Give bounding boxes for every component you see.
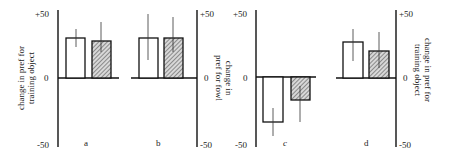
bar-b-hatched: [164, 38, 183, 78]
panel-label-d: d: [364, 138, 369, 148]
bar-a-hatched: [92, 41, 111, 78]
tick-top-right: +50: [399, 9, 414, 19]
tick-zero-c: 0: [243, 73, 248, 83]
bar-c-hatched: [291, 77, 310, 100]
svg-text:change in pref for: change in pref for: [16, 46, 26, 110]
tick-zero-right: 0: [403, 73, 408, 83]
tick-bottom-middle: -50: [200, 140, 212, 150]
ylabel-right: change in pref for training object: [413, 38, 433, 102]
ylabel-middle: change in pref for fowl: [214, 55, 234, 101]
bar-b-open: [139, 38, 158, 78]
tick-bottom-c: -50: [235, 140, 247, 150]
figure: +50 0 -50 change in pref for training ob…: [0, 0, 457, 156]
tick-zero-middle: 0: [204, 73, 209, 83]
tick-zero-left: 0: [44, 73, 49, 83]
svg-text:training object: training object: [413, 44, 423, 97]
ylabel-left: change in pref for training object: [16, 46, 36, 110]
svg-text:pref for fowl: pref for fowl: [214, 55, 224, 101]
svg-text:training object: training object: [26, 51, 36, 104]
bar-a-open: [66, 38, 85, 78]
tick-top-left: +50: [35, 9, 50, 19]
panel-label-a: a: [84, 138, 88, 148]
tick-top-c: +50: [233, 9, 248, 19]
tick-bottom-left: -50: [37, 140, 49, 150]
svg-text:change in: change in: [224, 61, 234, 96]
svg-text:change in pref for: change in pref for: [423, 38, 433, 102]
panel-label-b: b: [156, 138, 161, 148]
tick-top-middle: +50: [200, 9, 215, 19]
panel-label-c: c: [283, 138, 287, 148]
tick-bottom-right: -50: [399, 140, 411, 150]
